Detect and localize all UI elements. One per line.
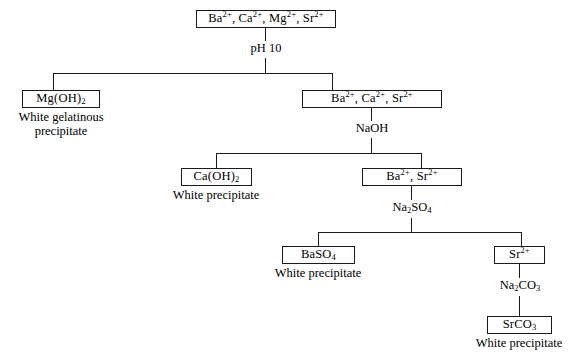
caption-sr-carbonate: White precipitate bbox=[476, 336, 562, 350]
caption-mg-hydroxide: White gelatinous precipitate bbox=[0, 110, 126, 138]
node-root[interactable]: Ba2+, Ca2+, Mg2+, Sr2+ bbox=[196, 10, 336, 28]
caption-mg-hydroxide-line2: precipitate bbox=[35, 124, 88, 138]
node-sr-carbonate-label: SrCO3 bbox=[503, 318, 537, 331]
connector-bus1-drop-left bbox=[53, 73, 54, 90]
reagent-naoh: NaOH bbox=[356, 122, 389, 135]
connector-bus-level1 bbox=[53, 73, 333, 74]
connector-bus3-drop-left bbox=[318, 232, 319, 246]
node-sr-ion-label: Sr2+ bbox=[509, 248, 530, 261]
connector-na2co3-to-sr-carbonate bbox=[519, 296, 520, 316]
caption-ca-hydroxide: White precipitate bbox=[173, 188, 259, 202]
node-sr-ion[interactable]: Sr2+ bbox=[494, 246, 545, 264]
connector-ba-ca-sr-stem bbox=[371, 108, 372, 121]
node-ba-ca-sr[interactable]: Ba2+, Ca2+, Sr2+ bbox=[302, 90, 442, 108]
reagent-ph10: pH 10 bbox=[251, 42, 282, 55]
connector-ba-sr-stem bbox=[411, 186, 412, 200]
node-ba-sulfate-label: BaSO4 bbox=[301, 248, 336, 261]
connector-ph10-to-bus1 bbox=[265, 58, 266, 73]
node-ba-sulfate[interactable]: BaSO4 bbox=[282, 246, 355, 264]
node-mg-hydroxide[interactable]: Mg(OH)2 bbox=[22, 90, 100, 108]
node-ba-sr[interactable]: Ba2+, Sr2+ bbox=[362, 168, 462, 186]
node-root-label: Ba2+, Ca2+, Mg2+, Sr2+ bbox=[208, 12, 324, 25]
node-ca-hydroxide-label: Ca(OH)2 bbox=[194, 170, 240, 183]
node-ba-ca-sr-label: Ba2+, Ca2+, Sr2+ bbox=[331, 92, 413, 105]
caption-mg-hydroxide-line1: White gelatinous bbox=[18, 110, 103, 124]
node-ba-sr-label: Ba2+, Sr2+ bbox=[386, 170, 437, 183]
node-sr-carbonate[interactable]: SrCO3 bbox=[487, 316, 552, 334]
connector-root-stem bbox=[265, 28, 266, 41]
reagent-na2co3: Na2CO3 bbox=[500, 279, 540, 292]
connector-sr-ion-stem bbox=[519, 264, 520, 278]
connector-na2so4-to-bus3 bbox=[411, 218, 412, 232]
reagent-na2so4: Na2SO4 bbox=[392, 201, 431, 214]
caption-ba-sulfate: White precipitate bbox=[275, 266, 361, 280]
connector-naoh-to-bus2 bbox=[371, 138, 372, 153]
node-mg-hydroxide-label: Mg(OH)2 bbox=[36, 92, 85, 105]
node-ca-hydroxide[interactable]: Ca(OH)2 bbox=[181, 168, 252, 186]
flowchart-canvas: Ba2+, Ca2+, Mg2+, Sr2+ pH 10 Mg(OH)2 Whi… bbox=[0, 0, 580, 357]
connector-bus3-drop-right bbox=[521, 232, 522, 246]
connector-bus-level3 bbox=[318, 232, 522, 233]
connector-bus2-drop-left bbox=[216, 153, 217, 168]
connector-bus2-drop-right bbox=[421, 153, 422, 168]
connector-bus-level2 bbox=[216, 153, 422, 154]
connector-bus1-drop-right bbox=[332, 73, 333, 90]
